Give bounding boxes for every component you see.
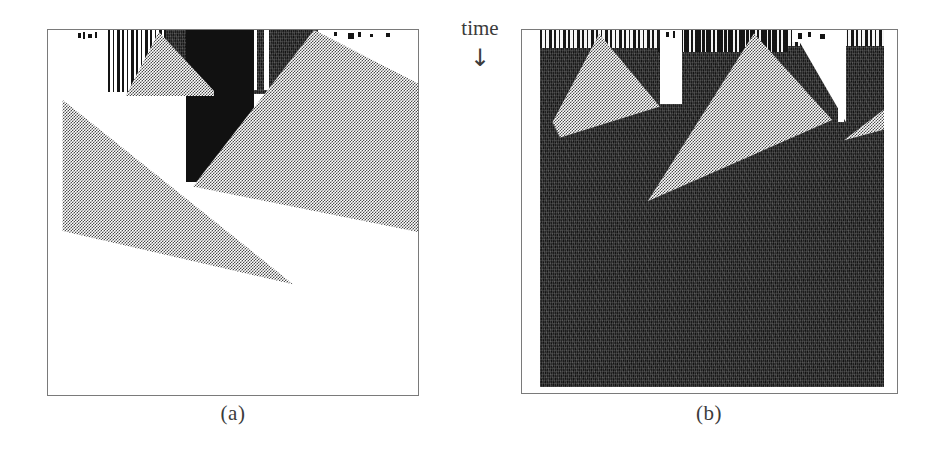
panel-a-plot: [48, 30, 418, 395]
caption-a: (a): [133, 401, 333, 426]
time-axis-label: time: [444, 16, 516, 41]
time-arrow-down-icon: ↓: [444, 46, 516, 70]
panel-b-plot: [540, 30, 884, 387]
panel-b-right-gray-sliver: [844, 108, 884, 142]
panel-a-speck: [83, 32, 85, 39]
panel-b-right-gray-triangle: [640, 30, 840, 210]
panel-a-left-gray-triangle: [48, 98, 293, 288]
caption-b: (b): [609, 401, 809, 426]
panel-a-speck: [95, 32, 97, 38]
panel-b-frame: [521, 29, 898, 394]
panel-a-speck: [88, 34, 92, 38]
panel-a-frame: [47, 29, 419, 396]
figure-container: (a) time ↓: [0, 0, 941, 451]
panel-a-speck: [78, 33, 81, 38]
